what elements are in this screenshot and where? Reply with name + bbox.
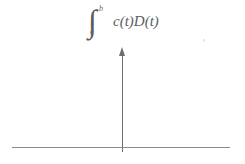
integrand-expression: c(t)D(t) [113, 14, 159, 29]
horizontal-axis-line [12, 147, 230, 148]
arrow-shaft [122, 54, 123, 152]
paper-speck [203, 39, 205, 42]
integral-formula-label: ∫ b a c(t)D(t) [88, 4, 159, 38]
integral-lower-limit: a [90, 28, 94, 36]
figure-canvas: ∫ b a c(t)D(t) [0, 0, 245, 164]
integral-upper-limit: b [99, 5, 103, 13]
integral-symbol-group: ∫ b a [88, 4, 110, 38]
